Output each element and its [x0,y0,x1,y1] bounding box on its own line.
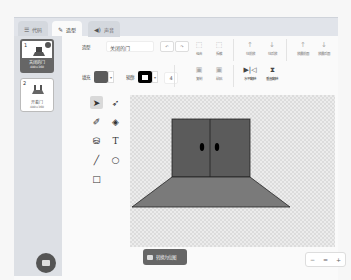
paste-icon: ▣ [216,66,223,74]
outline-color-swatch[interactable] [138,71,152,83]
tab-sounds[interactable]: ◀) 声音 [88,21,120,37]
group-icon: ⬚ [196,41,203,49]
zoom-controls: − = + [305,252,346,267]
drawing-canvas[interactable] [130,95,335,247]
brush-tool[interactable]: ✐ [90,115,103,128]
copy-button[interactable]: ▣复制 [190,66,208,81]
zoom-in-button[interactable]: + [332,253,345,266]
image-icon [147,255,153,260]
zoom-out-button[interactable]: − [306,253,319,266]
reshape-tool[interactable]: ➶ [109,96,122,109]
zoom-out-icon: − [310,256,315,263]
paint-editor-frame: ☰ 代码 ✎ 造型 ◀) 声音 1 关闭的门 480×360 2 [14,17,338,280]
tab-code[interactable]: ☰ 代码 [18,21,48,37]
image-icon [42,260,50,266]
costume-thumbnail [32,85,44,94]
outline-label: 轮廓 [126,74,134,80]
zoom-reset-icon: = [323,256,328,263]
arrow-down-icon: ↓ [269,41,275,49]
redo-button[interactable]: ↷ [175,41,189,52]
eraser-icon: ◈ [112,117,119,127]
circle-icon: ○ [112,155,120,165]
rectangle-icon: □ [92,174,101,184]
brush-icon: ✎ [58,26,63,33]
zoom-reset-button[interactable]: = [319,253,332,266]
divider [286,39,287,61]
costume-name-input[interactable]: 关闭的门 [106,41,154,52]
text-tool[interactable]: T [109,134,122,147]
backward-button[interactable]: ↓往后放 [263,41,281,56]
speaker-icon: ◀) [94,26,101,33]
forward-button[interactable]: ↑往前放 [241,41,259,56]
flip-horizontal-icon: ▶|◁ [243,66,256,74]
costume-item[interactable]: 1 关闭的门 480×360 [20,39,54,73]
divider [233,65,234,87]
ungroup-icon: ⬚ [216,41,223,49]
convert-to-bitmap-button[interactable]: 转换为位图 [143,249,187,265]
fill-dropdown[interactable]: ▾ [108,71,114,83]
circle-tool[interactable]: ○ [109,153,122,166]
tab-costumes[interactable]: ✎ 造型 [52,21,82,37]
copy-icon: ▣ [196,66,203,74]
brush-icon: ✐ [93,117,101,127]
line-tool[interactable]: ╱ [90,153,103,166]
fill-color-swatch[interactable] [94,71,108,83]
arrow-icon: ➤ [93,98,101,108]
group-button[interactable]: ⬚组合 [190,41,208,56]
flip-vertical-button[interactable]: ⧗垂直翻转 [263,66,281,81]
undo-button[interactable]: ↶ [160,41,174,52]
ungroup-button[interactable]: ⬚拆散 [210,41,228,56]
outline-width-input[interactable]: 4 [164,72,178,84]
bucket-icon: ⛁ [93,136,101,146]
code-icon: ☰ [24,26,29,33]
costume-size: 480×360 [21,105,53,110]
line-icon: ╱ [94,155,99,165]
back-button[interactable]: ↓放最后面 [315,41,333,56]
delete-icon[interactable] [45,42,51,48]
arrow-top-icon: ↑ [300,41,306,49]
front-button[interactable]: ↑放最前面 [294,41,312,56]
fill-label: 填充 [82,74,90,80]
select-tool[interactable]: ➤ [90,96,103,109]
flip-horizontal-button[interactable]: ▶|◁水平翻转 [241,66,259,81]
fill-tool[interactable]: ⛁ [90,134,103,147]
paste-button[interactable]: ▣粘贴 [210,66,228,81]
costume-list: 1 关闭的门 480×360 2 开着门 480×360 [14,36,62,276]
rectangle-tool[interactable]: □ [90,172,103,185]
zoom-in-icon: + [336,256,341,263]
costume-size: 480×360 [22,65,52,70]
costume-thumbnail [33,47,45,56]
closed-door-drawing [130,95,335,247]
tab-bar: ☰ 代码 ✎ 造型 ◀) 声音 [14,17,338,36]
costume-label: 造型 [82,44,90,50]
add-costume-button[interactable] [36,253,56,273]
eraser-tool[interactable]: ◈ [109,115,122,128]
flip-vertical-icon: ⧗ [270,66,275,74]
text-icon: T [112,136,118,146]
arrow-up-icon: ↑ [247,41,253,49]
divider [174,65,175,87]
outline-dropdown[interactable]: ▾ [152,71,158,83]
arrow-bottom-icon: ↓ [321,41,327,49]
costume-item[interactable]: 2 开着门 480×360 [20,78,54,112]
divider [233,39,234,61]
reshape-icon: ➶ [112,98,120,108]
